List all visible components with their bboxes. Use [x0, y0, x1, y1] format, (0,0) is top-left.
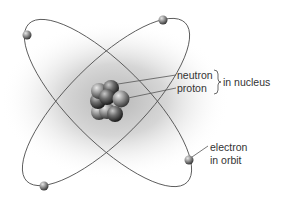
electron: [40, 182, 49, 191]
neutron-label: neutron: [177, 69, 213, 81]
proton-label: proton: [177, 82, 207, 94]
electron-label: electron: [210, 141, 247, 153]
nucleus-label: in nucleus: [223, 76, 270, 88]
atom-diagram: neutron proton in nucleus electron in or…: [0, 0, 284, 200]
orbit-label: in orbit: [210, 154, 242, 166]
atom-illustration: [0, 0, 284, 200]
electron: [159, 16, 168, 25]
electron: [23, 31, 32, 40]
